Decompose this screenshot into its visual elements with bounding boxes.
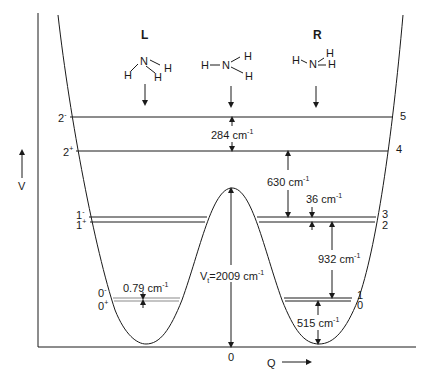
svg-text:1+: 1+ [76, 218, 86, 231]
gap-515-label: 515 cm-1 [297, 316, 339, 329]
svg-text:N: N [140, 55, 148, 67]
svg-text:N: N [222, 59, 230, 71]
svg-text:H: H [328, 58, 336, 70]
svg-text:H: H [124, 69, 132, 81]
svg-text:H: H [201, 59, 209, 71]
gap-932-label: 932 cm-1 [318, 252, 360, 265]
svg-text:2+: 2+ [63, 145, 73, 158]
svg-text:N: N [309, 58, 317, 70]
v-axis-label: V [18, 180, 26, 192]
svg-text:H: H [245, 70, 253, 82]
well-label-left: L [141, 28, 148, 42]
gap-36-label: 36 cm-1 [306, 192, 342, 205]
gap-284-label: 284 cm-1 [211, 128, 253, 141]
svg-text:H: H [154, 71, 162, 83]
svg-text:2-: 2- [58, 111, 67, 124]
svg-text:0: 0 [357, 299, 363, 311]
origin-label: 0 [228, 351, 234, 363]
molecule-right: H N H H [292, 47, 336, 70]
left-level-labels: 2- 2+ 1- 1+ 0- 0+ [58, 111, 108, 312]
gap-630-label: 630 cm-1 [267, 175, 309, 188]
well-label-right: R [313, 28, 322, 42]
svg-text:0+: 0+ [98, 299, 108, 312]
svg-text:H: H [292, 54, 300, 66]
molecule-center: H N H H [201, 50, 253, 82]
svg-text:0-: 0- [98, 286, 107, 299]
svg-text:5: 5 [400, 110, 406, 122]
gap-079-label: 0.79 cm-1 [123, 281, 168, 294]
barrier-label: Vt=2009 cm-1 [200, 269, 264, 284]
svg-text:H: H [164, 62, 172, 74]
svg-text:2: 2 [382, 219, 388, 231]
svg-text:4: 4 [396, 143, 402, 155]
svg-text:H: H [244, 50, 252, 62]
q-axis-label: Q [267, 357, 276, 369]
molecule-left: N H H H [124, 55, 172, 83]
double-well-diagram: V Q 0 2- 2+ 1- 1+ 0- 0+ 5 4 3 2 1 0 L R … [0, 0, 428, 379]
